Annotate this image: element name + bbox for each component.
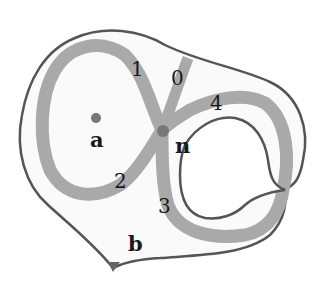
point-n [157, 125, 169, 137]
label-n: n [175, 133, 190, 158]
label-arc-1: 1 [131, 57, 144, 81]
label-arc-0: 0 [171, 66, 184, 90]
label-b: b [128, 231, 143, 256]
point-a [91, 113, 101, 123]
label-a: a [90, 127, 104, 152]
diagram-canvas: a n b 0 1 2 3 4 [0, 0, 328, 291]
label-arc-2: 2 [114, 169, 127, 193]
label-arc-4: 4 [210, 91, 223, 115]
label-arc-3: 3 [158, 194, 171, 218]
